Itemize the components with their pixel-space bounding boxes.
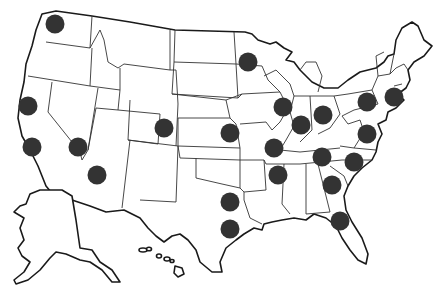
location-marker-washington-dc[interactable] xyxy=(358,125,377,144)
location-marker-new-york[interactable] xyxy=(385,88,404,107)
location-marker-minneapolis[interactable] xyxy=(239,53,258,72)
location-marker-houston[interactable] xyxy=(221,220,240,239)
location-marker-seattle[interactable] xyxy=(46,15,65,34)
location-marker-indianapolis[interactable] xyxy=(292,116,311,135)
location-marker-jacksonville[interactable] xyxy=(331,212,350,231)
location-marker-memphis[interactable] xyxy=(269,166,288,185)
hawaii-islands xyxy=(139,247,184,277)
location-marker-charlotte[interactable] xyxy=(345,153,364,172)
location-marker-chicago[interactable] xyxy=(274,98,293,117)
us-map-svg xyxy=(0,0,441,300)
location-marker-st-louis[interactable] xyxy=(265,139,284,158)
location-marker-atlanta[interactable] xyxy=(323,176,342,195)
location-marker-kansas-city[interactable] xyxy=(221,124,240,143)
location-marker-philadelphia[interactable] xyxy=(358,93,377,112)
location-marker-san-francisco[interactable] xyxy=(19,97,38,116)
location-marker-phoenix[interactable] xyxy=(88,166,107,185)
location-marker-los-angeles[interactable] xyxy=(23,138,42,157)
location-marker-nashville[interactable] xyxy=(313,148,332,167)
us-map xyxy=(0,0,441,300)
location-marker-las-vegas[interactable] xyxy=(69,138,88,157)
location-marker-columbus[interactable] xyxy=(314,106,333,125)
location-marker-denver[interactable] xyxy=(155,119,174,138)
location-marker-dallas[interactable] xyxy=(221,193,240,212)
